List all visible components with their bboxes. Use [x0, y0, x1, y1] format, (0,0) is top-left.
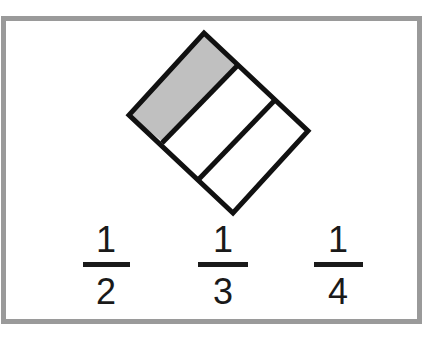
denominator: 4 [308, 274, 368, 310]
denominator: 2 [76, 274, 136, 310]
numerator: 1 [76, 222, 136, 258]
numerator: 1 [308, 222, 368, 258]
denominator: 3 [193, 274, 253, 310]
numerator: 1 [193, 222, 253, 258]
fraction-bar [83, 262, 130, 267]
fraction-bar [314, 262, 363, 267]
divider-line-2 [199, 101, 274, 179]
fraction-bar [198, 262, 248, 267]
